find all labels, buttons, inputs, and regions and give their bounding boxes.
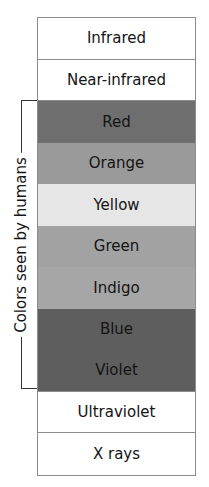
- bracket-label: Colors seen by humans: [12, 153, 30, 337]
- band-ultraviolet: Ultraviolet: [38, 392, 195, 434]
- band-near-infrared: Near-infrared: [38, 60, 195, 102]
- band-x-rays: X rays: [38, 433, 195, 475]
- band-green: Green: [38, 226, 195, 268]
- band-indigo: Indigo: [38, 267, 195, 309]
- band-yellow: Yellow: [38, 184, 195, 226]
- band-orange: Orange: [38, 143, 195, 185]
- band-violet: Violet: [38, 350, 195, 392]
- bracket-bottom-tick: [21, 388, 37, 389]
- band-infrared: Infrared: [38, 18, 195, 60]
- bracket-top-tick: [21, 100, 37, 101]
- band-red: Red: [38, 101, 195, 143]
- band-blue: Blue: [38, 309, 195, 351]
- spectrum-stack: Infrared Near-infrared Red Orange Yellow…: [37, 17, 196, 476]
